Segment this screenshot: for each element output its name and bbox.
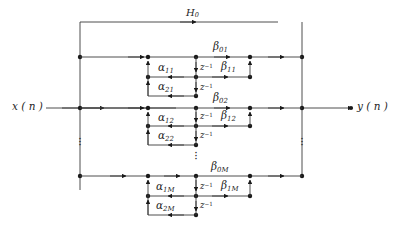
- coefficient-alpha-11: α11: [158, 62, 174, 74]
- coefficient-beta-01: β01: [213, 41, 228, 53]
- coefficient-beta-0M: β0M: [211, 161, 229, 173]
- section-2-branch: [80, 106, 302, 147]
- delay-element-1a: z−1: [200, 63, 213, 72]
- feedback-gain-label: H0: [186, 8, 199, 19]
- signal-flow-diagram: x ( n ) y ( n ) H0 β01 α11 z−1 β11 α21 z…: [0, 0, 402, 246]
- coefficient-alpha-22: α22: [158, 130, 174, 142]
- left-rail-ellipsis: ···: [74, 138, 86, 148]
- delay-element-2b: z−1: [200, 131, 213, 140]
- section-M-branch: [80, 174, 302, 217]
- section-1-branch: [80, 55, 302, 98]
- center-ellipsis: ···: [190, 152, 202, 162]
- delay-element-Ma: z−1: [200, 182, 213, 191]
- coefficient-beta-12: β12: [221, 110, 236, 122]
- right-rail-ellipsis: ···: [296, 138, 308, 148]
- delay-element-1b: z−1: [200, 83, 213, 92]
- input-signal-label: x ( n ): [12, 101, 43, 112]
- coefficient-alpha-2M: α2M: [156, 200, 175, 212]
- coefficient-alpha-1M: α1M: [156, 181, 175, 193]
- coefficient-alpha-12: α12: [158, 112, 174, 124]
- coefficient-beta-1M: β1M: [221, 180, 239, 192]
- delay-element-Mb: z−1: [200, 201, 213, 210]
- output-signal-label: y ( n ): [357, 101, 388, 112]
- output-branch: [302, 106, 353, 110]
- coefficient-alpha-21: α21: [158, 81, 174, 93]
- coefficient-beta-02: β02: [213, 92, 228, 104]
- coefficient-beta-11: β11: [221, 61, 236, 73]
- left-rail: [78, 22, 278, 190]
- delay-element-2a: z−1: [200, 112, 213, 121]
- right-rail: [300, 22, 304, 178]
